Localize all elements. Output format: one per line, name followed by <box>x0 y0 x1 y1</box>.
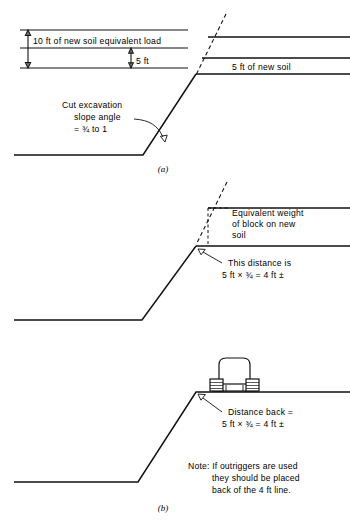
note-line-3: back of the 4 ft line. <box>212 485 291 495</box>
slope-note-leader <box>134 119 163 137</box>
block-label-line-1: Equivalent weight <box>232 208 304 218</box>
block-label-line-3: soil <box>232 230 246 240</box>
dim-depth-label: 5 ft <box>136 56 149 66</box>
crane-vehicle <box>210 358 259 391</box>
slope-note-line-1: Cut excavation <box>62 100 122 110</box>
ground-and-cut-slope-b-lower <box>14 392 350 482</box>
caption-a: (a) <box>158 164 169 174</box>
ground-and-cut-slope-b-upper <box>14 246 196 320</box>
distance-note-leader <box>203 252 222 263</box>
distance-back-line-1: Distance back = <box>228 407 293 417</box>
distance-back-line-2: 5 ft × ¾ = 4 ft ± <box>222 419 284 429</box>
note-line-1: Note: If outriggers are used <box>188 461 298 471</box>
note-line-2: they should be placed <box>212 473 300 483</box>
panel-a: 10 ft of new soil equivalent load 5 ft 5… <box>14 14 350 174</box>
engineering-figure: 10 ft of new soil equivalent load 5 ft 5… <box>0 0 350 527</box>
distance-label-line-2: 5 ft × ¾ = 4 ft ± <box>222 270 284 280</box>
distance-back-leader <box>203 398 222 412</box>
slope-note-leader-arrowhead <box>160 135 167 142</box>
crane-cab <box>219 358 250 385</box>
slope-note-line-2: slope angle <box>74 112 121 122</box>
panel-b-upper: Equivalent weight of block on new soil T… <box>14 182 350 320</box>
crane-track-left <box>210 379 223 391</box>
distance-label-line-1: This distance is <box>228 258 291 268</box>
crane-track-right <box>246 379 259 391</box>
panel-b-lower: Distance back = 5 ft × ¾ = 4 ft ± Note: … <box>14 358 350 513</box>
dim-load-label: 10 ft of new soil equivalent load <box>33 36 161 46</box>
figure-page: 10 ft of new soil equivalent load 5 ft 5… <box>0 0 350 527</box>
slope-projection-dashed-b <box>196 182 227 245</box>
slope-note-line-3: = ¾ to 1 <box>74 124 107 134</box>
distance-note-leader-arrowhead <box>198 249 205 255</box>
slope-projection-dashed-a <box>196 14 226 75</box>
block-label-line-2: of block on new <box>232 219 296 229</box>
caption-b: (b) <box>158 503 169 513</box>
soil-layer-label: 5 ft of new soil <box>232 62 291 72</box>
